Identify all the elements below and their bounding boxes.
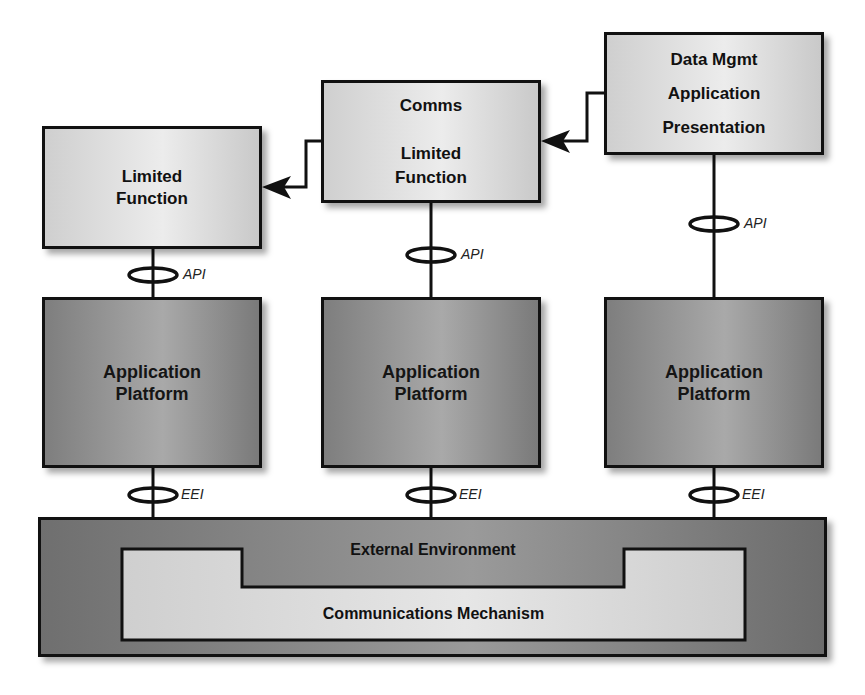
architecture-diagram: Limited Function Comms Limited Function …	[0, 0, 865, 695]
external-environment-label: External Environment	[242, 541, 624, 559]
communications-mechanism-label: Communications Mechanism	[122, 605, 745, 623]
communications-mechanism-shape	[0, 0, 865, 695]
